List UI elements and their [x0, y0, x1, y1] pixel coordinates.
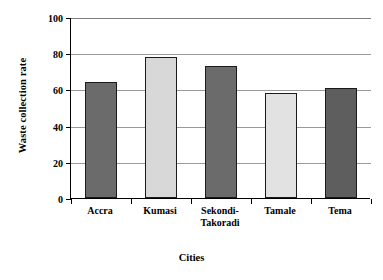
bar — [85, 82, 117, 198]
bar — [205, 66, 237, 198]
x-axis-tick-origin — [71, 199, 72, 204]
gridline-80 — [71, 54, 371, 55]
y-axis-tick-60: 60 — [66, 90, 71, 91]
bar — [265, 93, 297, 198]
y-axis-tick-label-40: 40 — [53, 121, 63, 134]
y-axis-tick-label-20: 20 — [53, 157, 63, 170]
y-axis-tick-100: 100 — [66, 18, 71, 19]
y-axis-tick-20: 20 — [66, 163, 71, 164]
x-axis-tick — [131, 199, 132, 204]
plot-area: 020406080100 — [70, 18, 370, 199]
gridline-100 — [71, 18, 371, 19]
y-axis-tick-80: 80 — [66, 54, 71, 55]
y-axis-tick-label-100: 100 — [48, 12, 63, 25]
y-axis-tick-label-80: 80 — [53, 48, 63, 61]
y-axis-title-text: Waste collection rate — [18, 57, 29, 152]
x-axis-category-label: Kumasi — [130, 205, 190, 217]
x-axis-category-label: Tamale — [250, 205, 310, 217]
x-axis-tick — [191, 199, 192, 204]
x-axis-title: Cities — [0, 252, 383, 263]
x-axis-category-label: Sekondi- Takoradi — [190, 205, 250, 229]
x-axis-tick — [311, 199, 312, 204]
y-axis-tick-label-0: 0 — [58, 193, 63, 206]
bar — [145, 57, 177, 198]
x-axis-tick — [371, 199, 372, 204]
x-axis-tick — [251, 199, 252, 204]
y-axis-title: Waste collection rate — [14, 0, 32, 210]
x-axis-category-label: Accra — [70, 205, 130, 217]
bar — [325, 88, 357, 198]
y-axis-tick-label-60: 60 — [53, 84, 63, 97]
x-axis-category-label: Tema — [310, 205, 370, 217]
bar-chart-figure: Waste collection rate 020406080100 Accra… — [0, 0, 383, 280]
y-axis-tick-40: 40 — [66, 127, 71, 128]
